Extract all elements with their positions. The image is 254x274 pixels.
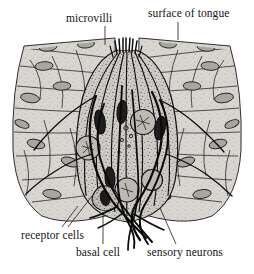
- label-sensory-neurons: sensory neurons: [147, 246, 223, 258]
- label-microvilli: microvilli: [66, 12, 112, 24]
- label-basal-cell: basal cell: [76, 246, 120, 258]
- label-surface-of-tongue: surface of tongue: [148, 7, 230, 19]
- label-receptor-cells: receptor cells: [21, 229, 84, 241]
